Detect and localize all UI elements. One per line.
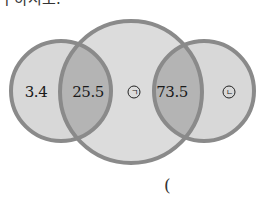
region-left-middle-overlap: 25.5 <box>72 83 103 101</box>
region-middle-only-marker: ㄱ <box>128 86 141 99</box>
region-left-only: 3.4 <box>25 83 47 101</box>
answer-paren: ( <box>164 175 171 195</box>
region-middle-right-overlap: 73.5 <box>156 83 187 101</box>
region-right-only-marker: ㄴ <box>223 86 236 99</box>
